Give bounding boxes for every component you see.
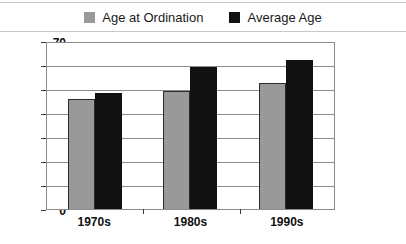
legend-item-average-age: Average Age — [229, 11, 321, 24]
legend-item-age-at-ordination: Age at Ordination — [84, 11, 203, 24]
x-axis-label: 1990s — [239, 216, 335, 228]
bar[interactable] — [286, 60, 313, 209]
x-axis-label: 1970s — [46, 216, 142, 228]
bar[interactable] — [259, 83, 286, 209]
chart-legend: Age at Ordination Average Age — [0, 2, 406, 32]
x-axis-label: 1980s — [142, 216, 238, 228]
bar-chart-figure: Age at Ordination Average Age 0102030405… — [0, 0, 406, 244]
bar[interactable] — [163, 91, 190, 209]
bar-group — [259, 43, 313, 209]
y-axis-tick-mark — [41, 210, 46, 211]
legend-swatch-black-icon — [229, 12, 240, 23]
x-axis-labels: 1970s1980s1990s — [46, 216, 335, 228]
bar-group — [68, 43, 122, 209]
bar[interactable] — [68, 99, 95, 209]
plot-wrapper: 010203040506070 1970s1980s1990s — [0, 32, 406, 244]
bar-series-container — [47, 43, 334, 209]
x-axis-tick-mark — [143, 209, 144, 214]
bar[interactable] — [95, 93, 122, 209]
plot-area — [46, 42, 335, 210]
bar-group — [163, 43, 217, 209]
legend-label-age-at-ordination: Age at Ordination — [102, 11, 203, 24]
legend-swatch-gray-icon — [84, 12, 95, 23]
legend-label-average-age: Average Age — [247, 11, 321, 24]
x-axis-tick-mark — [240, 209, 241, 214]
bar[interactable] — [190, 67, 217, 209]
